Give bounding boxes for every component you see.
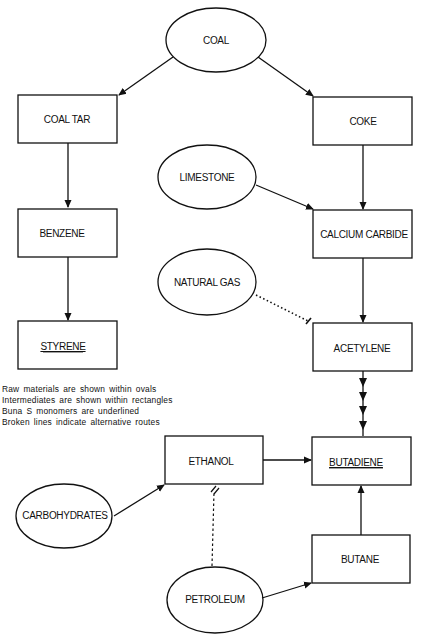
edge-coal-to-coke [258,57,313,96]
legend-line-broken-lines: Broken lines indicate alternative routes [2,417,173,428]
label-limestone: LIMESTONE [180,172,236,183]
label-natural-gas: NATURAL GAS [174,277,241,288]
legend-line-ovals: Raw materials are shown within ovals [2,384,173,395]
edge-petroleum-to-ethanol [212,492,214,566]
legend-line-rectangles: Intermediates are shown within rectangle… [2,395,173,406]
legend: Raw materials are shown within ovals Int… [2,384,173,428]
edge-limestone-to-calcium-carbide [256,185,313,209]
label-butane: BUTANE [341,554,380,565]
edge-coal-to-coal-tar [119,57,173,95]
label-ethanol: ETHANOL [188,456,234,467]
label-butadiene: BUTADIENE [329,457,383,468]
edge-natural-gas-to-acetylene [256,295,308,321]
edge-petroleum-tick [211,486,219,494]
label-benzene: BENZENE [39,228,85,239]
legend-line-underlined: Buna S monomers are underlined [2,406,173,417]
label-styrene: STYRENE [40,341,86,352]
label-acetylene: ACETYLENE [334,343,391,354]
label-calcium-carbide: CALCIUM CARBIDE [320,229,408,240]
label-coal-tar: COAL TAR [44,114,90,125]
flow-diagram: COAL COAL TAR COKE LIMESTONE BENZENE CAL… [0,0,421,635]
edge-carbohydrates-to-ethanol [114,485,164,516]
label-coke: COKE [349,116,377,127]
label-carbohydrates: CARBOHYDRATES [22,510,108,521]
edge-petroleum-to-butane [262,583,311,598]
label-coal: COAL [203,35,230,46]
label-petroleum: PETROLEUM [185,594,245,605]
